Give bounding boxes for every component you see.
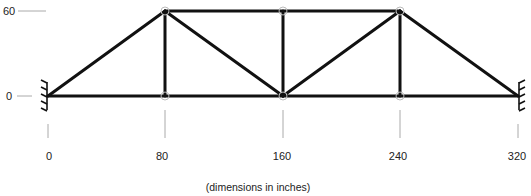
x-tick-label-160: 160 (273, 150, 291, 162)
x-tick-label-80: 80 (156, 150, 168, 162)
member-diagonal-left-interior (165, 11, 283, 96)
y-tick-label-60: 60 (3, 5, 15, 17)
x-axis: 0 80 160 240 320 (46, 110, 526, 162)
fixed-support-left-icon (41, 80, 47, 111)
x-tick-label-240: 240 (389, 150, 407, 162)
x-tick-label-320: 320 (508, 150, 526, 162)
member-left-end-diagonal (48, 11, 165, 96)
y-axis: 60 0 (3, 5, 46, 102)
fixed-support-right-icon (519, 80, 525, 111)
truss-members (48, 11, 518, 96)
x-tick-label-0: 0 (46, 150, 52, 162)
units-caption: (dimensions in inches) (206, 181, 310, 193)
truss-diagram: 60 0 (0, 0, 531, 196)
member-diagonal-right-interior (283, 11, 400, 96)
member-right-end-diagonal (400, 11, 518, 96)
y-tick-label-0: 0 (6, 90, 12, 102)
